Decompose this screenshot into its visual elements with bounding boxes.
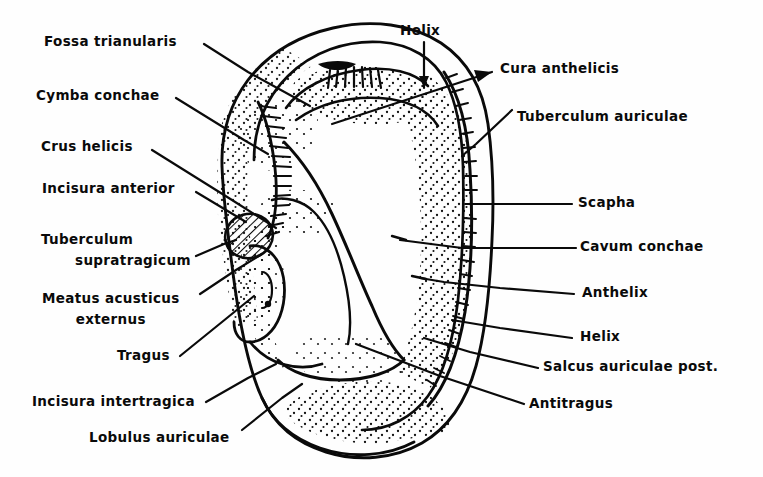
leader-helix-right: [452, 320, 572, 338]
label-tragus: Tragus: [117, 349, 170, 363]
label-meatus-acusticus-externus: Meatus acusticus externus: [42, 288, 180, 330]
leader-incisura-intertragica: [206, 364, 276, 402]
label-anthelix: Anthelix: [582, 286, 648, 300]
stipple-shading-lobule: [286, 381, 454, 444]
label-cavum-conchae: Cavum conchae: [580, 240, 704, 254]
label-helix-right: Helix: [580, 330, 620, 344]
anthelix-main-curve: [284, 142, 404, 360]
cura-anthelicis-arrowhead: [474, 70, 492, 82]
label-salcus-auriculae-post: Salcus auriculae post.: [543, 360, 718, 374]
label-meatus-acusticus-externus-line1: Meatus acusticus: [42, 290, 180, 306]
leader-tragus: [180, 296, 254, 356]
label-cymba-conchae: Cymba conchae: [36, 89, 160, 103]
label-lobulus-auriculae: Lobulus auriculae: [89, 431, 230, 445]
label-incisura-intertragica: Incisura intertragica: [32, 395, 195, 409]
label-scapha: Scapha: [578, 196, 635, 210]
label-tuberculum-supratragicum-line1: Tuberculum: [41, 231, 133, 247]
label-cura-anthelicis: Cura anthelicis: [500, 62, 619, 76]
label-antitragus: Antitragus: [529, 397, 613, 411]
label-helix-top: Helix: [400, 24, 440, 38]
label-incisura-anterior: Incisura anterior: [42, 182, 175, 196]
label-tuberculum-auriculae: Tuberculum auriculae: [517, 110, 688, 124]
meatus-dot: [265, 301, 271, 307]
label-tuberculum-supratragicum-line2: supratragicum: [41, 250, 191, 271]
label-fossa-trianularis: Fossa trianularis: [44, 35, 177, 49]
label-meatus-acusticus-externus-line2: externus: [42, 309, 180, 330]
label-crus-helicis: Crus helicis: [41, 140, 133, 154]
ear-anatomy-figure: Fossa trianularis Cymba conchae Crus hel…: [0, 0, 763, 477]
label-tuberculum-supratragicum: Tuberculum supratragicum: [41, 229, 191, 271]
